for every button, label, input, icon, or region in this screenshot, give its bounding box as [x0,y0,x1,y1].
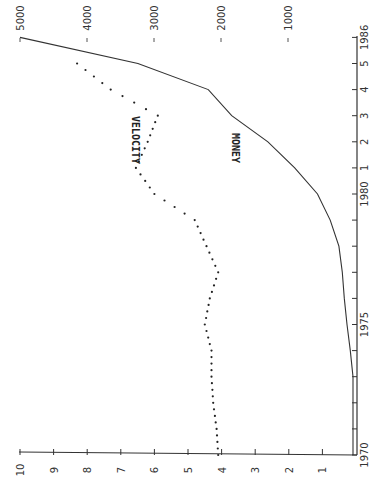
axes [19,36,357,455]
velocity-dot [208,252,210,254]
money-series-label: MONEY [230,133,241,163]
velocity-dot [184,213,186,215]
velocity-dot [200,232,202,234]
velocity-dot [209,297,211,299]
velocity-dot [212,402,214,404]
velocity-dot [139,173,141,175]
tick-labels: 1970197519801234519861234567891010002000… [15,5,370,476]
year-tick-label: 1975 [359,312,370,337]
velocity-dot [194,219,196,221]
velocity-dot [144,180,146,182]
velocity-dot [76,62,78,64]
velocity-dot [153,193,155,195]
velocity-dot [211,389,213,391]
money-series-line [20,37,353,455]
velocity-dot [174,206,176,208]
velocity-dot [214,265,216,267]
velocity-dot [154,121,156,123]
velocity-tick-label: 5 [183,467,194,473]
velocity-dot [210,376,212,378]
velocity-dot [147,141,149,143]
year-tick-label: 1986 [359,25,370,50]
velocity-dot [212,395,214,397]
velocity-dot [216,428,218,430]
velocity-dot [213,284,215,286]
velocity-dot [149,186,151,188]
money-tick-label: 1000 [283,5,294,30]
money-tick-label: 5000 [15,5,26,30]
velocity-dot [216,441,218,443]
velocity-dot [202,239,204,241]
velocity-dot [197,226,199,228]
velocity-dot [217,454,219,456]
year-tick-label: 1980 [359,181,370,206]
money-velocity-chart: 1970197519801234519861234567891010002000… [0,0,380,487]
velocity-dot [205,317,207,319]
year-tick-label: 5 [359,60,370,66]
velocity-dot [217,271,219,273]
velocity-dot [207,337,209,339]
velocity-dot [157,115,159,117]
velocity-dot [135,167,137,169]
velocity-tick-label: 10 [15,464,26,477]
velocity-dot [211,258,213,260]
velocity-tick-label: 7 [116,467,127,473]
velocity-dot [210,369,212,371]
velocity-tick-label: 2 [284,467,295,473]
velocity-tick-label: 1 [317,467,328,473]
velocity-dot [210,356,212,358]
velocity-dot [217,447,219,449]
velocity-dot [211,291,213,293]
velocity-tick-label: 4 [217,467,228,473]
velocity-dot [101,82,103,84]
velocity-dot [216,434,218,436]
velocity-dot [214,415,216,417]
velocity-dot [145,108,147,110]
velocity-dot [121,95,123,97]
year-tick-label: 4 [359,86,370,92]
money-tick-label: 2000 [216,5,227,30]
year-tick-label: 1 [359,165,370,171]
velocity-dot [149,134,151,136]
velocity-dot [152,128,154,130]
velocity-tick-label: 9 [49,467,60,473]
money-tick-label: 4000 [82,5,93,30]
velocity-dot [211,382,213,384]
year-tick-label: 3 [359,113,370,119]
velocity-dot [215,421,217,423]
money-tick-label: 3000 [149,5,160,30]
velocity-dot [206,310,208,312]
velocity-dot [205,245,207,247]
velocity-dot [84,69,86,71]
velocity-dot [133,102,135,104]
velocity-dot [205,330,207,332]
velocity-tick-label: 3 [250,467,261,473]
velocity-series-dots [76,62,219,456]
velocity-tick-label: 6 [149,467,160,473]
velocity-dot [215,278,217,280]
year-tick-label: 1970 [359,442,370,467]
velocity-series-label: VELOCITY [130,116,141,164]
velocity-dot [110,89,112,91]
velocity-dot [163,199,165,201]
velocity-dot [209,343,211,345]
velocity-dot [208,304,210,306]
velocity-dot [213,408,215,410]
velocity-dot [210,350,212,352]
velocity-tick-label: 8 [82,467,93,473]
velocity-dot [210,363,212,365]
velocity-dot [204,323,206,325]
year-tick-label: 2 [359,139,370,145]
velocity-dot [144,147,146,149]
velocity-dot [93,75,95,77]
